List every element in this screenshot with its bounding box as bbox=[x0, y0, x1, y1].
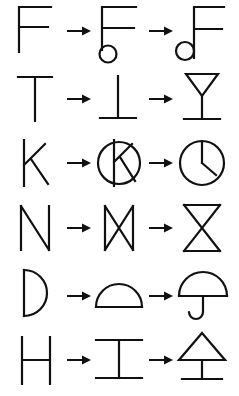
letter-t: T bbox=[8, 65, 66, 130]
tree: Tree bbox=[172, 329, 234, 394]
letter-f: F bbox=[8, 0, 66, 65]
umbrella: Umbrella bbox=[172, 260, 234, 325]
wine-glass: Wine glass bbox=[172, 65, 234, 130]
letter-k: K bbox=[8, 130, 66, 195]
illustration-sheet: Letter-to-picture drawing transformation… bbox=[0, 0, 239, 396]
h-ibeam: H rotated into I-beam bbox=[90, 329, 148, 394]
hourglass: Hourglass bbox=[172, 195, 234, 260]
eighth-note: Eighth note bbox=[172, 0, 234, 65]
f-with-circle: F rotated with circle bbox=[90, 0, 148, 65]
letter-n: N bbox=[8, 195, 66, 260]
letter-h: H bbox=[8, 329, 66, 394]
transformation-row: H H rotated into I-beam T bbox=[0, 329, 239, 394]
t-upside-down: Upside-down T bbox=[90, 65, 148, 130]
transformation-row: N N turned into bowtie Hourglass bbox=[0, 195, 239, 260]
n-bowtie: N turned into bowtie bbox=[90, 195, 148, 260]
transformation-row: T Upside-down T Wine glas bbox=[0, 65, 239, 130]
clock: Clock bbox=[172, 130, 234, 195]
letter-d: D bbox=[8, 260, 66, 325]
d-dome: D rotated into dome bbox=[90, 260, 148, 325]
k-in-circle: K inside circle bbox=[90, 130, 148, 195]
transformation-row: D D rotated into dome bbox=[0, 260, 239, 325]
transformation-row: F F rotated with circle bbox=[0, 0, 239, 65]
transformation-row: K K inside circle bbox=[0, 130, 239, 195]
